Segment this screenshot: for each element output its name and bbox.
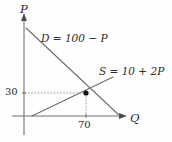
equilibrium-point (83, 90, 88, 95)
p-axis-label: P (20, 4, 28, 16)
supply-demand-figure: P Q D = 100 − P S = 10 + 2P 30 70 (0, 0, 172, 142)
demand-curve-label: D = 100 − P (41, 33, 107, 44)
supply-curve-label: S = 10 + 2P (99, 66, 164, 77)
price-tick-label: 30 (5, 87, 18, 97)
supply-curve (32, 77, 113, 116)
q-axis-label: Q (130, 113, 139, 125)
quantity-tick-label: 70 (78, 120, 91, 130)
